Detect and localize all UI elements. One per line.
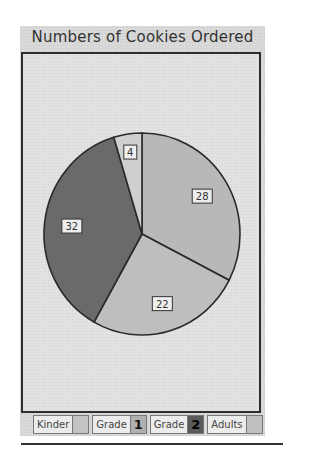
legend-swatch: 2 <box>188 416 203 433</box>
legend-item-grade-2[interactable]: Grade 2 <box>150 415 205 434</box>
slice-label: 22 <box>156 299 169 310</box>
slice-label: 28 <box>196 191 209 202</box>
legend-item-kinder[interactable]: Kinder <box>33 415 89 434</box>
chart-title: Numbers of Cookies Ordered <box>20 26 265 50</box>
legend-swatch <box>73 416 88 433</box>
plot-frame: 2822324 <box>21 52 261 413</box>
legend-item-grade-1[interactable]: Grade 1 <box>92 415 147 434</box>
legend-swatch <box>247 416 262 433</box>
legend-label: Grade <box>151 416 189 433</box>
legend-item-adults[interactable]: Adults <box>207 415 262 434</box>
legend-label: Kinder <box>34 416 73 433</box>
legend-swatch: 1 <box>131 416 146 433</box>
pie-chart: 2822324 <box>23 54 259 411</box>
slice-label: 4 <box>127 147 133 158</box>
legend-label: Adults <box>208 416 246 433</box>
bottom-divider <box>21 443 283 445</box>
legend: Kinder Grade 1 Grade 2 Adults <box>33 415 263 433</box>
slice-label: 32 <box>65 221 78 232</box>
legend-label: Grade <box>93 416 131 433</box>
chart-panel: Numbers of Cookies Ordered 2822324 Kinde… <box>20 26 265 436</box>
